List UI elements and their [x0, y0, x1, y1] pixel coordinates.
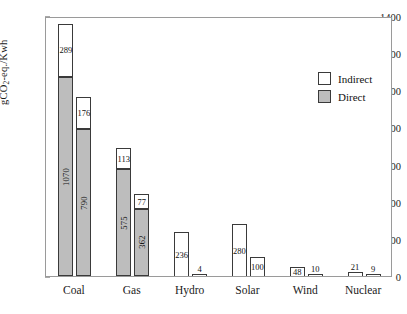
- x-axis-label-gas: Gas: [123, 284, 141, 296]
- bar-group: 280100: [220, 18, 278, 276]
- bar-stack[interactable]: 113575: [116, 148, 131, 276]
- bar-segment-direct: 575: [116, 169, 131, 276]
- plot-area: 2891070176790113575773622364280100481021…: [45, 17, 392, 277]
- y-axis-title-post: -eq./Kwh: [0, 40, 9, 81]
- bar-group: 2891070176790: [46, 18, 104, 276]
- bar-value-label-indirect: 77: [137, 197, 146, 207]
- bar-segment-indirect: 100: [250, 257, 265, 276]
- bar-segment-direct: 1070: [58, 77, 73, 276]
- bar-stack[interactable]: 21: [348, 272, 363, 276]
- x-axis-label-coal: Coal: [63, 284, 85, 296]
- bar-segment-direct: 362: [134, 209, 149, 276]
- bar-stack[interactable]: 9: [366, 274, 381, 276]
- legend-item-indirect: Indirect: [318, 72, 372, 85]
- bar-value-label-indirect: 10: [311, 264, 320, 274]
- bar-segment-indirect: 289: [58, 24, 73, 78]
- bar-segment-indirect: 236: [174, 232, 189, 276]
- bar-value-label-indirect: 48: [293, 267, 302, 277]
- bar-value-label-indirect: 176: [78, 108, 91, 118]
- legend-label-indirect: Indirect: [338, 73, 372, 85]
- bar-segment-indirect: 48: [290, 267, 305, 276]
- bar-value-label-indirect: 9: [371, 264, 375, 274]
- bar-stack[interactable]: 236: [174, 232, 189, 276]
- x-axis-label-solar: Solar: [235, 284, 259, 296]
- bar-segment-indirect: 113: [116, 148, 131, 169]
- legend-item-direct: Direct: [318, 90, 372, 103]
- bar-stack[interactable]: 4: [192, 274, 207, 276]
- bar-stack[interactable]: 48: [290, 267, 305, 276]
- bar-value-label-direct: 575: [119, 216, 129, 230]
- bar-group: 11357577362: [104, 18, 162, 276]
- bar-stack[interactable]: 176790: [76, 97, 91, 276]
- bar-segment-indirect: 176: [76, 97, 91, 130]
- bar-stack[interactable]: 77362: [134, 194, 149, 276]
- y-axis-title-pre: gCO: [0, 85, 9, 105]
- bar-stack[interactable]: 280: [232, 224, 247, 276]
- bar-group: 2364: [162, 18, 220, 276]
- emissions-bar-chart: gCO2-eq./Kwh 0200400600800100012001400 2…: [0, 0, 407, 314]
- bar-segment-indirect: 21: [348, 272, 363, 276]
- y-axis-title: gCO2-eq./Kwh: [0, 0, 11, 105]
- bar-value-label-indirect: 280: [233, 246, 246, 256]
- bar-value-label-indirect: 236: [175, 250, 188, 260]
- bar-value-label-direct: 362: [137, 236, 147, 250]
- bar-value-label-indirect: 4: [197, 264, 201, 274]
- bar-value-label-direct: 1070: [61, 168, 71, 186]
- bar-segment-indirect: 280: [232, 224, 247, 276]
- bar-value-label-indirect: 289: [60, 45, 73, 55]
- bar-segment-indirect: 77: [134, 194, 149, 208]
- bar-group: 219: [335, 18, 393, 276]
- bar-value-label-indirect: 21: [351, 262, 360, 272]
- bar-group: 4810: [277, 18, 335, 276]
- legend-swatch-direct: [318, 90, 331, 103]
- y-axis-title-subscript: 2: [2, 81, 11, 85]
- bar-stack[interactable]: 2891070: [58, 24, 73, 276]
- bar-segment-indirect: 4: [192, 274, 207, 276]
- bar-stack[interactable]: 100: [250, 257, 265, 276]
- x-axis-label-wind: Wind: [293, 284, 318, 296]
- legend-swatch-indirect: [318, 72, 331, 85]
- x-axis-label-nuclear: Nuclear: [345, 284, 381, 296]
- bar-segment-indirect: 9: [366, 274, 381, 276]
- x-axis-label-hydro: Hydro: [175, 284, 204, 296]
- bar-segment-direct: 790: [76, 129, 91, 276]
- bar-value-label-direct: 790: [79, 196, 89, 210]
- chart-legend: Indirect Direct: [318, 72, 372, 108]
- bar-value-label-indirect: 100: [251, 262, 264, 272]
- legend-label-direct: Direct: [338, 91, 365, 103]
- bar-value-label-indirect: 113: [118, 154, 130, 164]
- bar-segment-indirect: 10: [308, 274, 323, 276]
- bar-stack[interactable]: 10: [308, 274, 323, 276]
